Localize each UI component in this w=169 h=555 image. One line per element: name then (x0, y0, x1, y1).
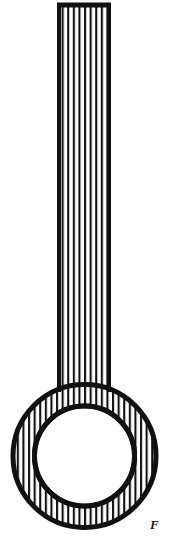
bore-interior (37, 409, 132, 504)
technical-figure-illustration: Hatched tube with annular ring (0, 0, 169, 555)
figure-page: Hatched tube with annular ring (0, 0, 169, 555)
figure-caption-fragment: F (150, 518, 169, 532)
